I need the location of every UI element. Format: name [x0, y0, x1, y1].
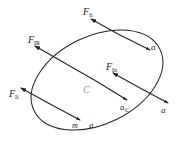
force-arrow-icon	[21, 88, 50, 104]
force-arrow-icon	[35, 46, 96, 81]
force-arrow-icon	[113, 73, 140, 88]
center-of-mass-label: C	[83, 84, 90, 95]
accel-label: a	[161, 105, 166, 115]
translation-inertia-diagram: F Ii a F IR a C F In a F Ii a C m	[0, 0, 178, 146]
rigid-body-ellipse	[15, 10, 178, 146]
accel-arrow-icon	[118, 34, 150, 50]
force-left: F Ii a	[8, 88, 94, 130]
accel-subscript: C	[125, 107, 129, 113]
force-subscript: In	[112, 67, 117, 73]
force-subscript: Ii	[89, 12, 93, 18]
force-subscript: IR	[34, 40, 40, 46]
accel-label: a	[89, 120, 94, 130]
accel-arrow-icon	[96, 81, 127, 100]
force-top: F Ii a	[82, 6, 156, 52]
mass-label: m	[72, 121, 78, 130]
accel-label: a	[151, 42, 156, 52]
accel-arrow-icon	[50, 104, 80, 120]
force-subscript: Ii	[15, 94, 19, 100]
